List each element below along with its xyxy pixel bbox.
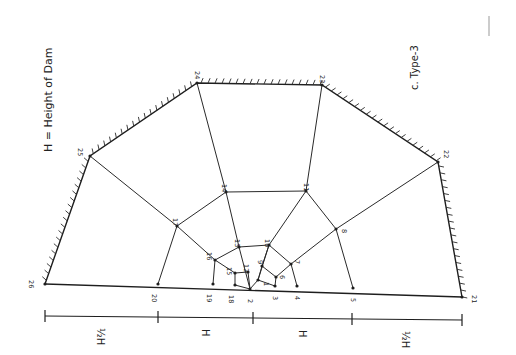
node-label-25: 25 <box>76 148 84 156</box>
node-7 <box>289 262 292 265</box>
node-1 <box>256 278 259 281</box>
node-label-14: 14 <box>220 184 228 192</box>
node-label-15: 15 <box>225 267 233 275</box>
node-9 <box>260 264 263 267</box>
boundary-hatching <box>42 78 467 298</box>
mesh-canvas: 1234567891011121314151617181920212223242… <box>0 0 516 355</box>
node-4 <box>295 284 298 287</box>
node-24 <box>195 81 198 84</box>
dimension-label-4: ½H <box>400 331 411 348</box>
node-label-2: 2 <box>246 299 254 303</box>
node-label-22: 22 <box>442 150 450 158</box>
node-5 <box>351 286 354 289</box>
node-23 <box>320 83 323 86</box>
dimension-label-1: ½H <box>95 328 106 345</box>
node-label-13: 13 <box>233 239 241 247</box>
node-22 <box>436 160 439 163</box>
legend-text: H = Height of Dam <box>42 48 55 152</box>
dimension-label-2: H <box>200 329 211 337</box>
node-label-21: 21 <box>470 295 478 303</box>
node-label-10: 10 <box>263 239 271 247</box>
node-label-4: 4 <box>293 296 301 300</box>
node-label-20: 20 <box>150 294 158 302</box>
node-3 <box>273 284 276 287</box>
node-label-19: 19 <box>205 294 213 302</box>
node-26 <box>43 282 46 285</box>
node-label-5: 5 <box>349 298 357 302</box>
node-label-1: 1 <box>262 282 270 286</box>
fixed-boundary <box>42 78 467 298</box>
dimension-line: ½H H H ½H <box>45 310 462 348</box>
node-label-17: 17 <box>171 218 179 226</box>
node-label-7: 7 <box>293 260 301 264</box>
node-label-18: 18 <box>227 295 235 303</box>
node-21 <box>460 295 463 298</box>
node-2 <box>248 287 251 290</box>
node-label-26: 26 <box>27 280 35 288</box>
node-label-3: 3 <box>271 296 279 300</box>
node-25 <box>88 154 91 157</box>
node-label-8: 8 <box>340 229 348 233</box>
node-label-24: 24 <box>193 71 201 79</box>
node-label-16: 16 <box>205 252 213 260</box>
node-8 <box>334 227 337 230</box>
node-label-11: 11 <box>302 183 310 191</box>
mesh-nodes: 1234567891011121314151617181920212223242… <box>27 71 478 303</box>
node-18 <box>233 283 236 286</box>
dimension-label-3: H <box>297 330 308 338</box>
node-19 <box>211 282 214 285</box>
figure-caption-visible: c. Type-3 <box>409 45 420 90</box>
node-label-23: 23 <box>318 75 326 83</box>
node-label-9: 9 <box>256 260 264 264</box>
node-6 <box>274 275 277 278</box>
dam-base-line <box>45 284 462 297</box>
node-20 <box>156 282 159 285</box>
node-label-6: 6 <box>278 275 286 279</box>
fem-mesh-figure: 1234567891011121314151617181920212223242… <box>0 0 516 355</box>
node-label-12: 12 <box>242 264 250 272</box>
mesh-edges <box>90 83 438 289</box>
